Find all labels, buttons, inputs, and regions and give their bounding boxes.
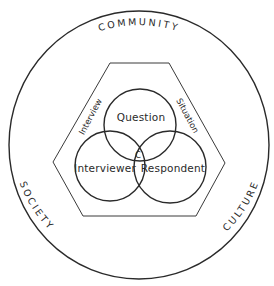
center-mark: C	[135, 151, 141, 160]
interview-label: Interview	[77, 97, 104, 137]
interviewer-label: Interviewer	[74, 162, 136, 174]
outer-circle	[9, 11, 269, 279]
interview-situation-hexagon	[53, 63, 225, 216]
interview-context-diagram: COMMUNITY SOCIETY CULTURE Interview Situ…	[0, 0, 274, 286]
respondent-label: Respondent	[141, 162, 205, 174]
community-label: COMMUNITY	[97, 16, 181, 33]
question-label: Question	[117, 111, 166, 123]
situation-label: Situation	[174, 96, 201, 134]
